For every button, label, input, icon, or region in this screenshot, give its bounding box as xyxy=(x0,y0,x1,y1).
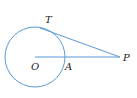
geometry-diagram: T O A P xyxy=(0,0,137,98)
label-p: P xyxy=(122,52,130,63)
tangent-segment-tp xyxy=(40,28,120,57)
label-a: A xyxy=(64,61,72,72)
label-t: T xyxy=(45,14,53,25)
label-o: O xyxy=(31,61,39,72)
